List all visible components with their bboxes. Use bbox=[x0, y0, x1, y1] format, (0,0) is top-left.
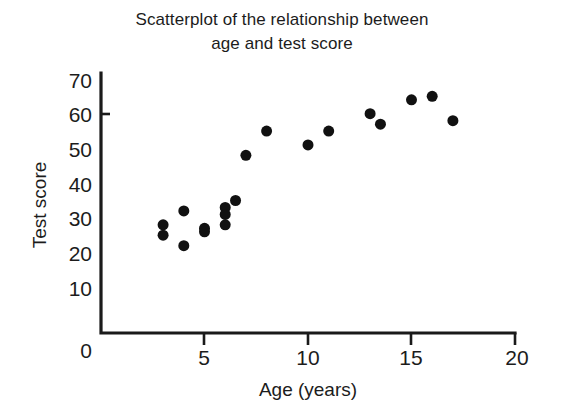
data-point bbox=[447, 115, 458, 126]
data-point bbox=[427, 91, 438, 102]
y-tick-label-60: 60 bbox=[69, 103, 92, 126]
data-point bbox=[178, 205, 189, 216]
y-axis-title: Test score bbox=[29, 162, 50, 249]
data-point bbox=[158, 219, 169, 230]
axis-lines bbox=[101, 73, 515, 333]
x-tick-label-20: 20 bbox=[505, 346, 528, 369]
y-tick-label-10: 10 bbox=[69, 277, 92, 300]
y-tick-label-50: 50 bbox=[69, 138, 92, 161]
data-point bbox=[230, 195, 241, 206]
data-point bbox=[323, 126, 334, 137]
x-tick-label-5: 5 bbox=[198, 346, 210, 369]
data-point bbox=[261, 126, 272, 137]
x-axis-ticks bbox=[204, 333, 515, 345]
data-point bbox=[406, 94, 417, 105]
data-point bbox=[365, 108, 376, 119]
data-point bbox=[158, 230, 169, 241]
x-axis-title: Age (years) bbox=[259, 379, 357, 400]
y-tick-label-30: 30 bbox=[69, 207, 92, 230]
y-tick-label-40: 40 bbox=[69, 173, 92, 196]
x-tick-labels: 5 10 15 20 bbox=[198, 346, 529, 369]
x-tick-label-10: 10 bbox=[296, 346, 319, 369]
y-tick-label-20: 20 bbox=[69, 242, 92, 265]
data-point bbox=[220, 209, 231, 220]
data-point bbox=[303, 139, 314, 150]
scatterplot-figure: Scatterplot of the relationship between … bbox=[0, 0, 564, 408]
data-points-layer bbox=[158, 91, 459, 251]
plot-canvas: 70 60 50 40 30 20 10 0 5 10 15 20 Age (y… bbox=[0, 0, 564, 408]
data-point bbox=[220, 219, 231, 230]
y-tick-label-0: 0 bbox=[80, 339, 92, 362]
y-tick-labels: 70 60 50 40 30 20 10 0 bbox=[69, 69, 92, 362]
data-point bbox=[178, 240, 189, 251]
data-point bbox=[199, 223, 210, 234]
y-tick-label-70: 70 bbox=[69, 69, 92, 92]
x-tick-label-15: 15 bbox=[399, 346, 422, 369]
data-point bbox=[240, 150, 251, 161]
data-point bbox=[375, 119, 386, 130]
